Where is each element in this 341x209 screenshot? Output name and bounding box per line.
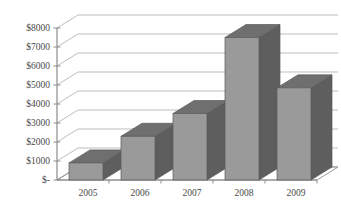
x-axis-tick-labels: 20052006200720082009: [79, 188, 306, 198]
y-tick-label: $2000: [26, 137, 50, 147]
bar-front-face: [225, 38, 259, 181]
y-tick-label: $6000: [26, 61, 50, 71]
y-tick-label: $3000: [26, 118, 50, 128]
bar-chart-3d: $-$1000$2000$3000$4000$5000$6000$7000$80…: [0, 0, 341, 209]
bar-2009: [277, 75, 332, 180]
y-tick-label: $-: [42, 175, 50, 185]
y-tick-label: $5000: [26, 80, 50, 90]
x-tick-label: 2008: [235, 188, 254, 198]
x-tick-label: 2007: [183, 188, 202, 198]
chart-canvas: $-$1000$2000$3000$4000$5000$6000$7000$80…: [0, 0, 341, 209]
y-axis-tick-labels: $-$1000$2000$3000$4000$5000$6000$7000$80…: [26, 23, 50, 185]
bar-series: [69, 25, 332, 181]
gridline: [57, 15, 338, 28]
gridline: [57, 53, 338, 66]
y-tick-label: $4000: [26, 99, 50, 109]
x-tick-label: 2009: [287, 188, 306, 198]
bar-front-face: [121, 136, 155, 180]
y-tick-label: $1000: [26, 156, 50, 166]
bar-2008: [225, 25, 280, 181]
bar-2006: [121, 123, 176, 180]
y-tick-label: $8000: [26, 23, 50, 33]
bar-2007: [173, 101, 228, 181]
bar-front-face: [173, 114, 207, 181]
bar-front-face: [277, 88, 311, 180]
x-tick-label: 2005: [79, 188, 98, 198]
bar-side-face: [311, 75, 332, 180]
x-tick-label: 2006: [131, 188, 150, 198]
gridline: [57, 34, 338, 47]
y-tick-label: $7000: [26, 42, 50, 52]
bar-2005: [69, 150, 124, 180]
bar-front-face: [69, 163, 103, 180]
